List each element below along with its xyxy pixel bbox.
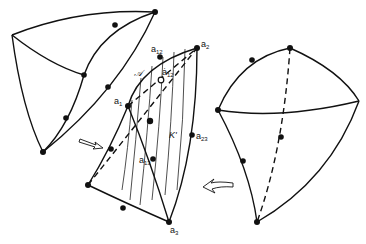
label-a2: a2 <box>201 39 210 50</box>
edge-right-bottom <box>257 101 359 222</box>
label-script-a: 𝒜 <box>134 68 145 78</box>
vertex-dot <box>254 219 260 225</box>
diagram-canvas: a2 a12 ȧ12 a1 a13 a23 a3 𝒜 K' <box>0 0 366 244</box>
label-a3: a3 <box>170 225 179 236</box>
midpoint-dot <box>278 134 284 140</box>
midpoint-dot <box>112 22 118 28</box>
interior-dot <box>147 118 153 124</box>
edge-left-bottom <box>218 110 257 222</box>
edge-inner-left <box>12 35 84 75</box>
hatch-line <box>140 66 152 205</box>
label-k-prime: K' <box>169 130 177 140</box>
vertex-dot <box>215 107 221 113</box>
midpoint-dot <box>105 84 111 90</box>
vertex-dot <box>152 9 158 15</box>
label-a12: a12 <box>151 44 163 55</box>
dashed-top-bottom <box>257 48 290 222</box>
edge-inner-top <box>84 12 155 75</box>
vertex-dot <box>81 72 87 78</box>
vertex-left <box>85 182 91 188</box>
point-a13 <box>150 156 156 162</box>
vertex-a2 <box>194 45 200 51</box>
point-a23 <box>189 132 195 138</box>
hatch-line <box>177 49 185 190</box>
vertex-dot <box>287 45 293 51</box>
midpoint-dot <box>249 57 255 63</box>
label-a23: a23 <box>196 131 208 142</box>
edge-middle <box>218 101 359 113</box>
midpoint-dot <box>63 115 69 121</box>
vertex-a1 <box>125 103 131 109</box>
midpoint-dot <box>108 146 114 152</box>
label-a1: a1 <box>114 96 123 107</box>
vertex-dot <box>40 149 46 155</box>
right-tetrahedron <box>215 45 359 225</box>
edge-top-right <box>290 48 359 101</box>
hollow-point-a12-hat <box>158 77 164 83</box>
middle-surface: a2 a12 ȧ12 a1 a13 a23 a3 𝒜 K' <box>85 39 210 236</box>
label-a12-hat: ȧ12 <box>162 67 174 78</box>
edge-left-a3 <box>88 185 169 222</box>
midpoint-dot <box>120 205 126 211</box>
point-a12 <box>157 54 163 60</box>
edge-inner-bottom <box>43 75 84 152</box>
arrow-right-icon <box>79 139 103 149</box>
edge-top-left <box>218 48 290 110</box>
edge-outer-left <box>12 35 43 152</box>
arrow-left-icon <box>203 179 233 193</box>
edge-top <box>12 11 155 35</box>
midpoint-dot <box>240 158 246 164</box>
